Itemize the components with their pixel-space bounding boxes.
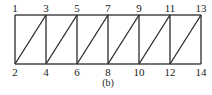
node-label-13: 13	[196, 2, 208, 14]
member-6-7	[77, 15, 108, 64]
member-4-5	[46, 15, 77, 64]
node-label-3: 3	[43, 2, 49, 14]
node-labels: 1234567891011121314	[12, 2, 207, 78]
truss-diagram: 1234567891011121314 (b)	[0, 0, 212, 95]
node-label-1: 1	[12, 2, 18, 14]
node-label-12: 12	[165, 66, 176, 78]
node-label-6: 6	[74, 66, 80, 78]
truss-members	[15, 15, 201, 64]
member-8-9	[108, 15, 139, 64]
node-label-7: 7	[105, 2, 111, 14]
member-2-3	[15, 15, 46, 64]
node-label-14: 14	[196, 66, 208, 78]
figure-caption: (b)	[102, 77, 114, 89]
node-label-4: 4	[43, 66, 49, 78]
node-label-11: 11	[165, 2, 176, 14]
member-12-13	[170, 15, 201, 64]
node-label-2: 2	[12, 66, 18, 78]
node-label-9: 9	[136, 2, 142, 14]
node-label-10: 10	[134, 66, 146, 78]
node-label-5: 5	[74, 2, 80, 14]
member-10-11	[139, 15, 170, 64]
